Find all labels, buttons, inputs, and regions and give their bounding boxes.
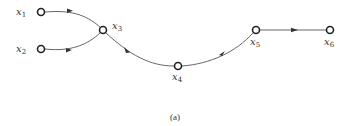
signal-flow-graph: x1 x2 x3 x4 x5 x6 (a) [0, 0, 351, 126]
label-x3: x3 [112, 20, 122, 33]
arrow-icon [291, 28, 298, 32]
node-x2 [38, 46, 45, 53]
edge-x4-x5 [182, 33, 253, 66]
node-x6 [327, 27, 334, 34]
label-x1: x1 [16, 6, 26, 19]
arrow-icon [219, 51, 225, 56]
node-x4 [175, 63, 182, 70]
arrow-icon [124, 47, 130, 53]
edge-x3-x4 [106, 33, 174, 66]
node-x5 [253, 27, 260, 34]
label-x5: x5 [250, 36, 260, 49]
figure-caption: (a) [170, 112, 180, 122]
label-x2: x2 [16, 43, 26, 56]
edge-x1-x3 [45, 12, 100, 27]
label-x4: x4 [172, 71, 183, 84]
label-x6: x6 [324, 36, 335, 49]
node-x3 [100, 27, 107, 34]
edge-x2-x3 [45, 33, 100, 50]
node-x1 [38, 9, 45, 16]
